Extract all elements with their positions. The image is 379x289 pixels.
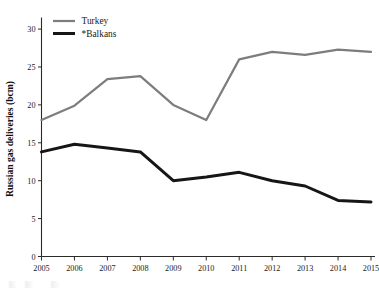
series-line-balkans [42, 144, 372, 202]
x-tick-label: 2014 [330, 264, 346, 273]
y-axis-title: Russian gas deliveries (bcm) [4, 81, 16, 197]
x-axis: 2005200620072008200920102011201220132014… [33, 257, 379, 274]
chart-legend: Turkey*Balkans [53, 16, 117, 39]
y-tick-labels: 051015202530 [27, 25, 35, 261]
legend-label: Turkey [82, 16, 109, 26]
y-tick-label: 5 [31, 215, 35, 224]
x-tick-label: 2015 [363, 264, 379, 273]
y-axis: 051015202530 [27, 18, 41, 262]
x-tick-label: 2010 [198, 264, 214, 273]
x-tick-label: 2006 [66, 264, 82, 273]
y-tick-label: 25 [27, 63, 35, 72]
x-tick-label: 2012 [264, 264, 280, 273]
series-line-turkey [42, 50, 372, 121]
x-tick-label: 2005 [33, 264, 49, 273]
y-tick-label: 30 [27, 25, 35, 34]
x-tick-label: 2009 [165, 264, 181, 273]
chart-plot-area: 051015202530 200520062007200820092010201… [0, 0, 379, 289]
x-tick-label: 2008 [132, 264, 148, 273]
y-tick-label: 15 [27, 139, 35, 148]
y-tick-label: 0 [31, 253, 35, 262]
legend-label: *Balkans [82, 29, 117, 39]
x-tick-label: 2011 [231, 264, 247, 273]
page-scan-artifact [8, 281, 128, 288]
x-tick-marks [42, 257, 372, 261]
data-series-group [42, 50, 372, 202]
y-tick-label: 10 [27, 177, 35, 186]
x-tick-labels: 2005200620072008200920102011201220132014… [33, 264, 379, 273]
line-chart-figure: 051015202530 200520062007200820092010201… [0, 0, 379, 289]
y-tick-label: 20 [27, 101, 35, 110]
x-tick-label: 2013 [297, 264, 313, 273]
x-tick-label: 2007 [99, 264, 115, 273]
